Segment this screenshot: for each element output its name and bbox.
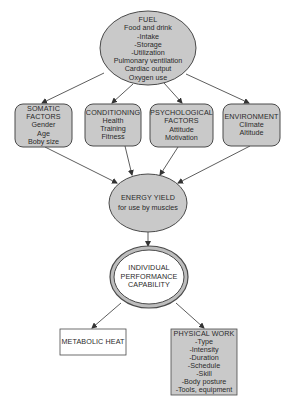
fuel-node: FUEL Food and drink -Intake -Storage -Ut… <box>100 12 196 86</box>
arrow-fuel-to-conditioning <box>112 84 133 103</box>
performance-node: INDIVIDUAL PERFORMANCE CAPABILITY <box>110 246 188 308</box>
conditioning-node: CONDITIONING Health Training Fitness <box>85 104 141 146</box>
arrow-environment-to-energy <box>178 146 250 183</box>
energy-title: ENERGY YIELD <box>121 193 175 203</box>
psychological-node: PSYCHOLOGICAL FACTORS Attitude Motivatio… <box>150 104 213 147</box>
metabolic-node: METABOLIC HEAT <box>60 329 126 355</box>
somatic-node: SOMATIC FACTORS Gender Age Boby size <box>15 104 72 147</box>
somatic-line: Boby size <box>28 138 59 146</box>
arrow-somatic-to-energy <box>45 147 117 183</box>
arrow-fuel-to-somatic <box>42 73 104 103</box>
psychological-line: Motivation <box>165 134 198 142</box>
fuel-line: Oxygen use <box>129 74 167 82</box>
physical-node: PHYSICAL WORK -Type -Intensity -Duration… <box>171 329 237 395</box>
energy-line: for use by muscles <box>118 203 178 213</box>
arrow-fuel-to-psychological <box>164 83 182 103</box>
environment-node: ENVIRONMENT Climate Altitude <box>223 104 280 146</box>
metabolic-title: METABOLIC HEAT <box>61 338 124 346</box>
conditioning-line: Fitness <box>101 133 124 141</box>
energy-node: ENERGY YIELD for use by muscles <box>109 174 187 232</box>
performance-line: CAPABILITY <box>128 281 170 290</box>
physical-line: -Tools, equipment <box>176 386 233 394</box>
arrow-psychological-to-energy <box>160 147 178 175</box>
arrow-conditioning-to-energy <box>125 146 132 175</box>
environment-line: Altitude <box>240 129 264 137</box>
